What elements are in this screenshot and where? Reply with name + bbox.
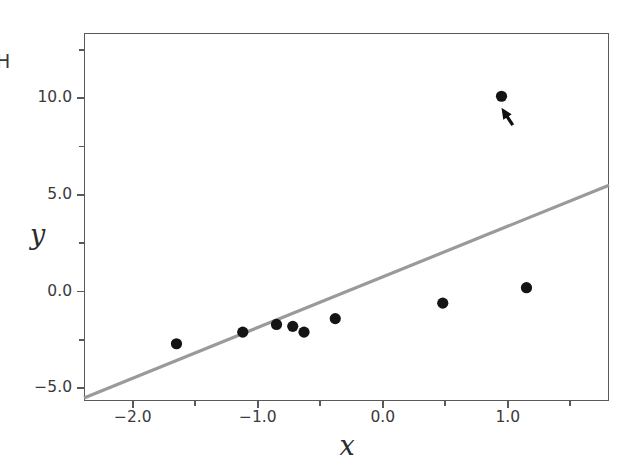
data-point — [287, 321, 298, 332]
data-point — [171, 338, 182, 349]
data-point — [298, 327, 309, 338]
x-tick-mark — [257, 401, 259, 408]
x-axis-title: x — [339, 430, 354, 461]
plot-data-layer — [84, 33, 609, 401]
y-tick-label: −5.0 — [34, 378, 72, 396]
x-tick-label: 1.0 — [495, 408, 520, 426]
x-tick-mark — [319, 401, 321, 406]
x-tick-mark — [507, 401, 509, 408]
scatter-plot-figure: H y x 10.05.00.0−5.0−2.0−1.00.01.0 — [0, 0, 635, 475]
x-tick-label: −2.0 — [114, 408, 152, 426]
data-point — [496, 91, 507, 102]
x-tick-mark — [132, 401, 134, 408]
y-tick-mark — [77, 291, 84, 293]
x-tick-mark — [194, 401, 196, 406]
data-point — [521, 282, 532, 293]
y-axis-title: y — [30, 219, 45, 250]
data-point — [271, 319, 282, 330]
clipped-corner-text: H — [0, 50, 10, 72]
x-tick-mark — [444, 401, 446, 406]
data-point — [330, 313, 341, 324]
y-tick-mark — [77, 194, 84, 196]
y-tick-mark — [77, 97, 84, 99]
x-tick-label: 0.0 — [370, 408, 395, 426]
y-tick-label: 5.0 — [47, 185, 72, 203]
x-tick-label: −1.0 — [239, 408, 277, 426]
y-tick-mark — [77, 387, 84, 389]
y-tick-label: 0.0 — [47, 282, 72, 300]
x-tick-mark — [569, 401, 571, 406]
annotations-group — [502, 108, 513, 125]
data-points-group — [171, 91, 532, 350]
data-point — [237, 327, 248, 338]
data-point — [437, 298, 448, 309]
x-tick-mark — [382, 401, 384, 408]
y-tick-label: 10.0 — [37, 88, 72, 106]
